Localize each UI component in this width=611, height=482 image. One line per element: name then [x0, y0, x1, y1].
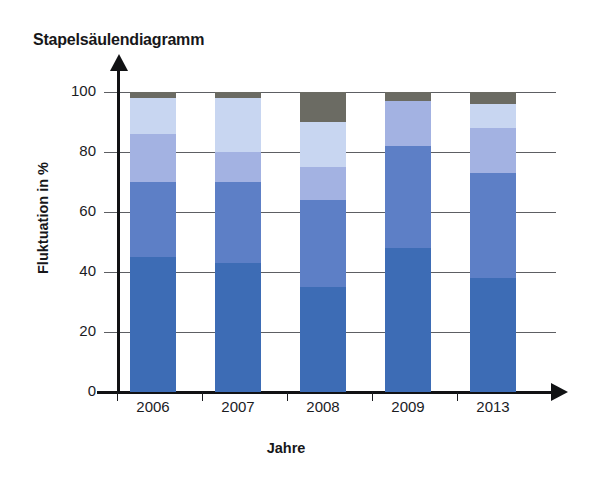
bar-segment [215, 98, 261, 152]
bar-2009 [385, 92, 431, 392]
x-tick-label: 2006 [113, 398, 193, 415]
bar-segment [470, 128, 516, 173]
bar-segment [130, 182, 176, 257]
bar-segment [385, 146, 431, 248]
bar-2008 [300, 92, 346, 392]
x-tick-label: 2007 [198, 398, 278, 415]
bar-segment [215, 92, 261, 98]
x-tick-label: 2013 [453, 398, 533, 415]
bar-segment [130, 92, 176, 98]
bar-segment [470, 278, 516, 392]
bar-segment [130, 98, 176, 134]
bar-segment [130, 134, 176, 182]
bar-segment [470, 92, 516, 104]
x-tick-label: 2009 [368, 398, 448, 415]
bar-2006 [130, 92, 176, 392]
bar-segment [385, 101, 431, 146]
bar-segment [300, 92, 346, 122]
bar-2007 [215, 92, 261, 392]
bar-segment [215, 182, 261, 263]
stacked-bar-chart: Stapelsäulendiagramm Fluktuation in % Ja… [0, 0, 611, 482]
bar-segment [300, 287, 346, 392]
bar-segment [300, 200, 346, 287]
bar-segment [300, 167, 346, 200]
bar-segment [385, 92, 431, 101]
bar-segment [385, 248, 431, 392]
bar-2013 [470, 92, 516, 392]
bar-segment [215, 263, 261, 392]
bar-segment [130, 257, 176, 392]
bar-segment [300, 122, 346, 167]
bar-segment [215, 152, 261, 182]
x-tick-label: 2008 [283, 398, 363, 415]
bar-segment [470, 173, 516, 278]
bar-segment [470, 104, 516, 128]
